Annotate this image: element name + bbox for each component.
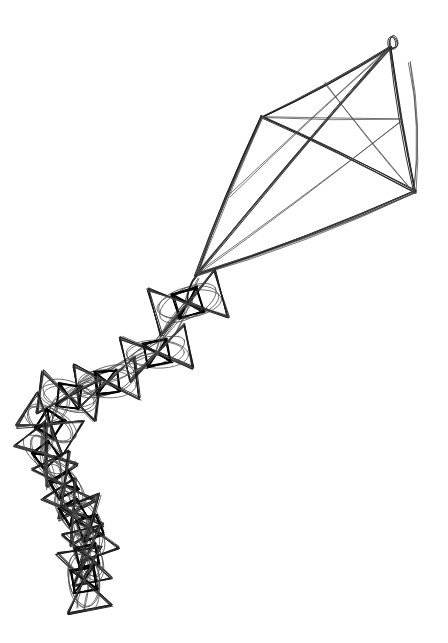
drawing-canvas (0, 0, 448, 643)
kite-line-drawing (0, 0, 448, 643)
canvas-background (0, 0, 448, 643)
